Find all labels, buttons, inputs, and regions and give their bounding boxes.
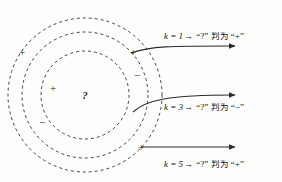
to-symbol-k3: → (183, 103, 194, 112)
verdict-sign-k1: “+” (231, 31, 244, 41)
marker-plus-outer-lower-right: + (138, 142, 144, 153)
query-point-label: ? (82, 90, 88, 101)
marker-plus-outer-upper-left: + (19, 47, 25, 58)
marker-minus-inner-right: − (134, 70, 140, 81)
to-symbol-k5: → (183, 160, 194, 169)
arrow-label-k5: k = 5→ “?” 判为 “+” (164, 160, 244, 169)
k-value-k3: k = 3 (164, 102, 183, 112)
verdict-sign-k5: “+” (231, 159, 244, 169)
arrow-label-k1: k = 1→ “?” 判为 “+” (164, 32, 244, 41)
query-token-k1: “?” (196, 31, 208, 41)
diagram-svg (0, 0, 282, 182)
verdict-text-k3: 判为 (211, 102, 229, 112)
query-token-k3: “?” (196, 102, 208, 112)
marker-plus-middle-upper-right: + (130, 47, 136, 58)
arrow-k1-line (131, 46, 235, 53)
marker-minus-middle-lower-left: − (39, 117, 45, 128)
to-symbol-k1: → (183, 32, 194, 41)
verdict-sign-k3: “−” (231, 102, 244, 112)
query-token-k5: “?” (196, 159, 208, 169)
verdict-text-k5: 判为 (211, 159, 229, 169)
arrow-group (131, 46, 235, 147)
arrow-label-k3: k = 3→ “?” 判为 “−” (164, 103, 244, 112)
knn-diagram-canvas: + + − − + + ? k = 1→ “?” 判为 “+” k = 3→ “… (0, 0, 282, 182)
k-value-k5: k = 5 (164, 159, 183, 169)
marker-plus-inner-left: + (50, 83, 56, 94)
k-value-k1: k = 1 (164, 31, 183, 41)
verdict-text-k1: 判为 (211, 31, 229, 41)
